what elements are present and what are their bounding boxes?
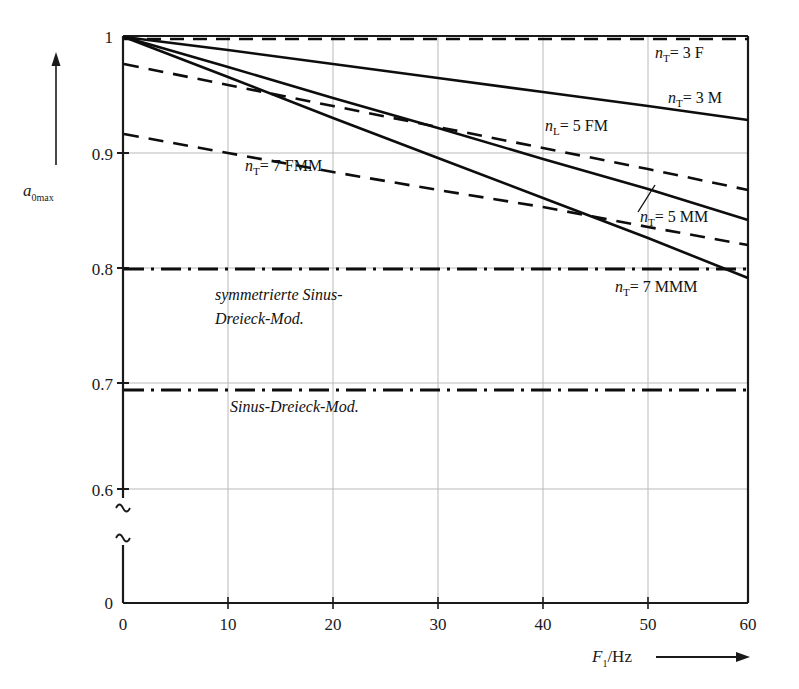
ann0-rest: = 3 F — [670, 44, 704, 61]
ytick-label-1: 1 — [105, 28, 114, 47]
ytick-label-0.7: 0.7 — [92, 375, 114, 394]
ytick-label-0.9: 0.9 — [92, 145, 113, 164]
xtick-label-30: 30 — [430, 615, 447, 634]
ann3-n: n — [245, 157, 253, 174]
ann2-n: n — [545, 117, 553, 134]
xtick-label-40: 40 — [535, 615, 552, 634]
ann1-rest: = 3 M — [683, 89, 722, 106]
ytick-label-0.8: 0.8 — [92, 260, 113, 279]
ytick-label-0.6: 0.6 — [92, 481, 113, 500]
ann0-n: n — [655, 44, 663, 61]
chart-svg: 1 0.9 0.8 0.7 0.6 0 0 10 20 30 40 50 60 … — [0, 0, 799, 689]
xtick-label-0: 0 — [119, 615, 128, 634]
ytick-label-0: 0 — [105, 594, 114, 613]
label-sinus-dreieck: Sinus-Dreieck-Mod. — [230, 398, 359, 415]
y-axis-title-sub: 0max — [32, 192, 54, 203]
xtick-label-20: 20 — [325, 615, 342, 634]
ann2-rest: = 5 FM — [560, 117, 608, 134]
ann5-n: n — [615, 278, 623, 295]
label-sym-sinus-dreieck-line1: symmetrierte Sinus- — [215, 286, 343, 304]
x-axis-title-main: F — [591, 647, 603, 666]
chart-figure: 1 0.9 0.8 0.7 0.6 0 0 10 20 30 40 50 60 … — [0, 0, 799, 689]
label-sym-sinus-dreieck-line2: Dreieck-Mod. — [214, 310, 304, 327]
xtick-label-10: 10 — [220, 615, 237, 634]
ann4-n: n — [640, 208, 648, 225]
ann1-n: n — [668, 89, 676, 106]
xtick-label-50: 50 — [640, 615, 657, 634]
ann4-rest: = 5 MM — [655, 208, 708, 225]
x-axis-title: F1/Hz — [591, 647, 632, 669]
xtick-label-60: 60 — [740, 615, 757, 634]
ann3-rest: = 7 FMM — [260, 157, 322, 174]
x-axis-title-rest: /Hz — [607, 647, 632, 666]
y-axis-title-main: a — [23, 181, 32, 200]
ann5-rest: = 7 MMM — [630, 278, 698, 295]
